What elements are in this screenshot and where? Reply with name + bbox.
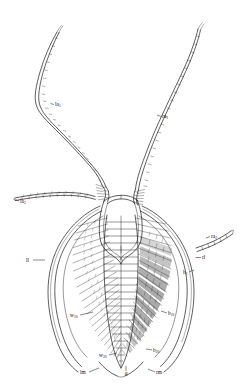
label-ll: ll <box>26 257 29 263</box>
label-q: q <box>125 370 128 376</box>
label-rm: rm <box>156 369 163 375</box>
label-rl: rl <box>202 254 206 260</box>
figure-container: la2la1ra1ra2rlllb1b10b20w10w20lmrmq <box>0 0 246 390</box>
label-lm: lm <box>80 369 86 375</box>
anatomical-drawing: la2la1ra1ra2rlllb1b10b20w10w20lmrmq <box>0 0 246 390</box>
